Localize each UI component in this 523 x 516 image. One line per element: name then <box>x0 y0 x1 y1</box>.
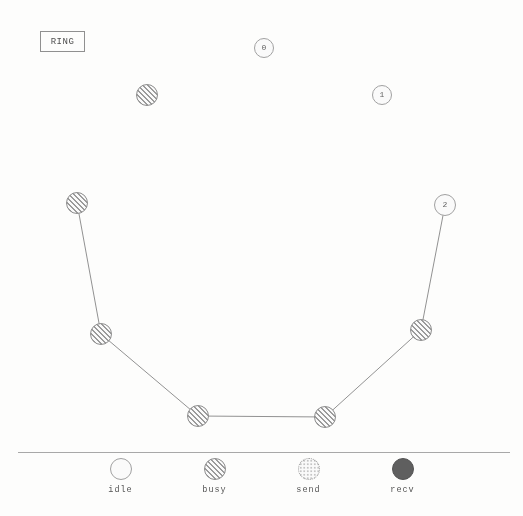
legend-label: idle <box>108 485 132 495</box>
diagram-canvas <box>0 0 523 516</box>
graph-node-label: 1 <box>380 91 385 99</box>
graph-node-n0[interactable]: 0 <box>254 38 274 58</box>
graph-node-n8[interactable] <box>410 319 432 341</box>
legend-swatch-recv-icon <box>392 458 414 480</box>
diagram-edge <box>423 215 443 320</box>
legend-label: busy <box>202 485 226 495</box>
graph-node-n2[interactable]: 2 <box>434 194 456 216</box>
graph-node-n7[interactable] <box>314 406 336 428</box>
legend-swatch-send-icon <box>298 458 320 480</box>
diagram-edge <box>109 340 191 409</box>
graph-node-label: 0 <box>262 44 267 52</box>
legend-item-recv: recv <box>375 458 431 495</box>
graph-node-label: 2 <box>443 201 448 209</box>
diagram-edge <box>208 416 315 417</box>
legend-item-busy: busy <box>187 458 243 495</box>
ring-title-label: RING <box>51 37 75 47</box>
edge-layer <box>79 213 443 417</box>
legend-label: send <box>296 485 320 495</box>
ring-title-box: RING <box>40 31 85 52</box>
graph-node-n6[interactable] <box>187 405 209 427</box>
graph-node-n4[interactable] <box>66 192 88 214</box>
legend: idlebusysendrecv <box>0 458 523 495</box>
diagram-edge <box>79 213 99 324</box>
legend-swatch-busy-icon <box>204 458 226 480</box>
graph-node-n5[interactable] <box>90 323 112 345</box>
legend-item-send: send <box>281 458 337 495</box>
legend-label: recv <box>390 485 414 495</box>
legend-swatch-idle-icon <box>110 458 132 480</box>
diagram-edge <box>332 337 413 411</box>
legend-item-idle: idle <box>93 458 149 495</box>
graph-node-n3[interactable] <box>136 84 158 106</box>
legend-separator <box>18 452 510 453</box>
graph-node-n1[interactable]: 1 <box>372 85 392 105</box>
